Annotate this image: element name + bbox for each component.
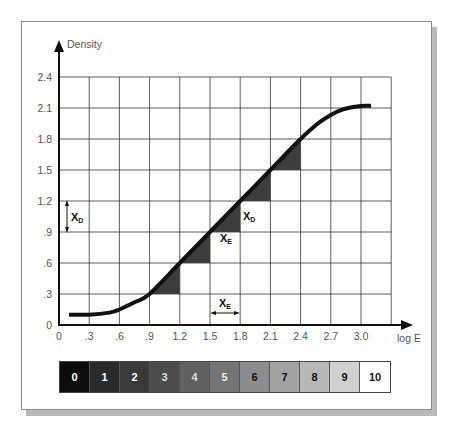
y-tick-label: .3 — [43, 288, 52, 300]
gray-step-10: 10 — [360, 362, 390, 392]
x-tick-labels: 0.3.6.91.21.51.82.12.42.73.0 — [56, 330, 368, 342]
xe-bottom-annotation: XE — [210, 297, 240, 315]
y-tick-label: .9 — [43, 226, 52, 238]
x-tick-label: .6 — [115, 330, 124, 342]
gray-step-9: 9 — [330, 362, 360, 392]
y-tick-labels: 0.3.6.91.21.51.82.12.4 — [37, 71, 52, 331]
gray-step-0: 0 — [60, 362, 90, 392]
y-axis-arrow-icon — [54, 40, 64, 52]
xd-left-annotation: XD — [65, 200, 83, 233]
gray-scale-step-wedge: 012345678910 — [59, 361, 391, 393]
xe-mid-label: XE — [220, 232, 232, 245]
y-tick-label: 1.8 — [37, 133, 52, 145]
x-tick-label: .3 — [85, 330, 94, 342]
gray-step-6: 6 — [240, 362, 270, 392]
axes — [54, 40, 413, 330]
gray-step-3: 3 — [150, 362, 180, 392]
y-tick-label: 1.2 — [37, 195, 52, 207]
y-axis-title: Density — [67, 38, 103, 50]
x-tick-label: 3.0 — [354, 330, 369, 342]
x-tick-label: 0 — [56, 330, 62, 342]
x-tick-label: 2.4 — [293, 330, 308, 342]
gray-step-7: 7 — [270, 362, 300, 392]
gray-step-8: 8 — [300, 362, 330, 392]
x-tick-label: 2.1 — [263, 330, 278, 342]
arrow-left-icon — [210, 311, 216, 315]
gray-step-2: 2 — [120, 362, 150, 392]
y-tick-label: 2.4 — [37, 71, 52, 83]
x-axis-arrow-icon — [401, 320, 413, 330]
x-axis-title: log E — [397, 332, 421, 344]
gray-step-5: 5 — [210, 362, 240, 392]
x-tick-label: 1.2 — [172, 330, 187, 342]
y-tick-label: 1.5 — [37, 164, 52, 176]
x-tick-label: .9 — [145, 330, 154, 342]
y-tick-label: .6 — [43, 257, 52, 269]
y-tick-label: 0 — [46, 319, 52, 331]
x-tick-label: 1.8 — [233, 330, 248, 342]
gray-step-4: 4 — [180, 362, 210, 392]
density-curve — [69, 106, 371, 315]
arrow-right-icon — [234, 311, 240, 315]
y-tick-label: 2.1 — [37, 102, 52, 114]
x-tick-label: 2.7 — [323, 330, 338, 342]
grid — [59, 77, 391, 325]
svg-text:XD: XD — [71, 211, 83, 224]
svg-text:XE: XE — [219, 297, 231, 310]
gray-step-1: 1 — [90, 362, 120, 392]
x-tick-label: 1.5 — [203, 330, 218, 342]
xd-mid-label: XD — [243, 210, 255, 223]
